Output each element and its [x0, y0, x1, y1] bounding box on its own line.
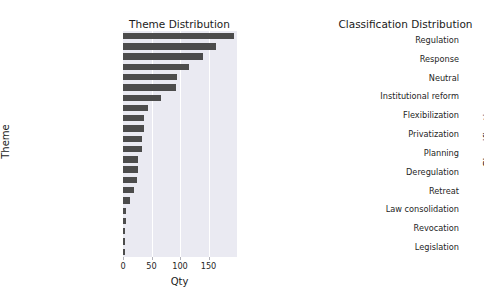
- bar: [123, 136, 142, 142]
- x-tick-label: 50: [137, 261, 167, 271]
- bar-fill: [123, 125, 144, 131]
- y-tick-label: Retreat: [299, 187, 459, 196]
- bar: [123, 218, 126, 224]
- bar: [123, 238, 125, 244]
- y-tick-label: Neutral: [299, 74, 459, 83]
- bar-fill: [123, 53, 203, 59]
- y-tick-label: Flexibilization: [299, 111, 459, 120]
- bar-fill: [123, 136, 142, 142]
- chart-theme-distribution: Theme Distribution Theme Qty Institution…: [0, 0, 242, 306]
- y-tick-label: Law consolidation: [299, 205, 459, 214]
- x-tick-label: 0: [108, 261, 138, 271]
- x-tick-mark: [152, 257, 153, 260]
- bar: [123, 115, 144, 121]
- y-tick-label: Deregulation: [299, 168, 459, 177]
- bar: [123, 84, 176, 90]
- bar-fill: [123, 64, 189, 70]
- y-tick-label: Planning: [299, 149, 459, 158]
- y-tick-label: Revocation: [299, 224, 459, 233]
- bar: [123, 249, 125, 255]
- chart-classification-distribution: Classification Distribution Classificati…: [242, 0, 484, 306]
- bar-fill: [123, 156, 138, 162]
- bar-fill: [123, 228, 125, 234]
- bar: [123, 187, 134, 193]
- bar-fill: [123, 105, 148, 111]
- bar-fill: [123, 115, 144, 121]
- bar-fill: [123, 238, 125, 244]
- y-tick-label: Response: [299, 55, 459, 64]
- bar: [123, 105, 148, 111]
- y-tick-label: Legislation: [299, 243, 459, 252]
- y-tick-label: Privatization: [299, 130, 459, 139]
- x-tick-label: 150: [194, 261, 224, 271]
- bar-fill: [123, 187, 134, 193]
- bar: [123, 166, 138, 172]
- bar-fill: [123, 43, 216, 49]
- y-tick-label: Institutional reform: [299, 92, 459, 101]
- chart-title-theme: Theme Distribution: [122, 18, 237, 30]
- bar: [123, 43, 216, 49]
- bar: [123, 146, 142, 152]
- bar: [123, 95, 161, 101]
- bar: [123, 125, 144, 131]
- bar-fill: [123, 249, 125, 255]
- bar: [123, 64, 189, 70]
- x-tick-label: 100: [165, 261, 195, 271]
- bar: [123, 197, 130, 203]
- y-tick-label: Regulation: [299, 36, 459, 45]
- bar-fill: [123, 84, 176, 90]
- bar-fill: [123, 166, 138, 172]
- bar-series-theme: [123, 31, 237, 257]
- x-axis-label-theme: Qty: [122, 276, 237, 287]
- bar-fill: [123, 74, 177, 80]
- bar-fill: [123, 208, 126, 214]
- bar-fill: [123, 95, 161, 101]
- x-tick-mark: [123, 257, 124, 260]
- bar-fill: [123, 33, 234, 39]
- bar: [123, 33, 234, 39]
- bar: [123, 208, 126, 214]
- bar-fill: [123, 177, 137, 183]
- x-tick-mark: [209, 257, 210, 260]
- bar: [123, 177, 137, 183]
- plot-area-theme: [123, 31, 237, 257]
- figure-canvas: Theme Distribution Theme Qty Institution…: [0, 0, 484, 306]
- bar: [123, 53, 203, 59]
- x-tick-mark: [180, 257, 181, 260]
- bar: [123, 156, 138, 162]
- bar: [123, 228, 125, 234]
- bar-fill: [123, 197, 130, 203]
- y-axis-label-theme: Theme: [0, 119, 11, 165]
- bar-fill: [123, 218, 126, 224]
- bar-fill: [123, 146, 142, 152]
- bar: [123, 74, 177, 80]
- chart-title-classification: Classification Distribution: [338, 18, 473, 30]
